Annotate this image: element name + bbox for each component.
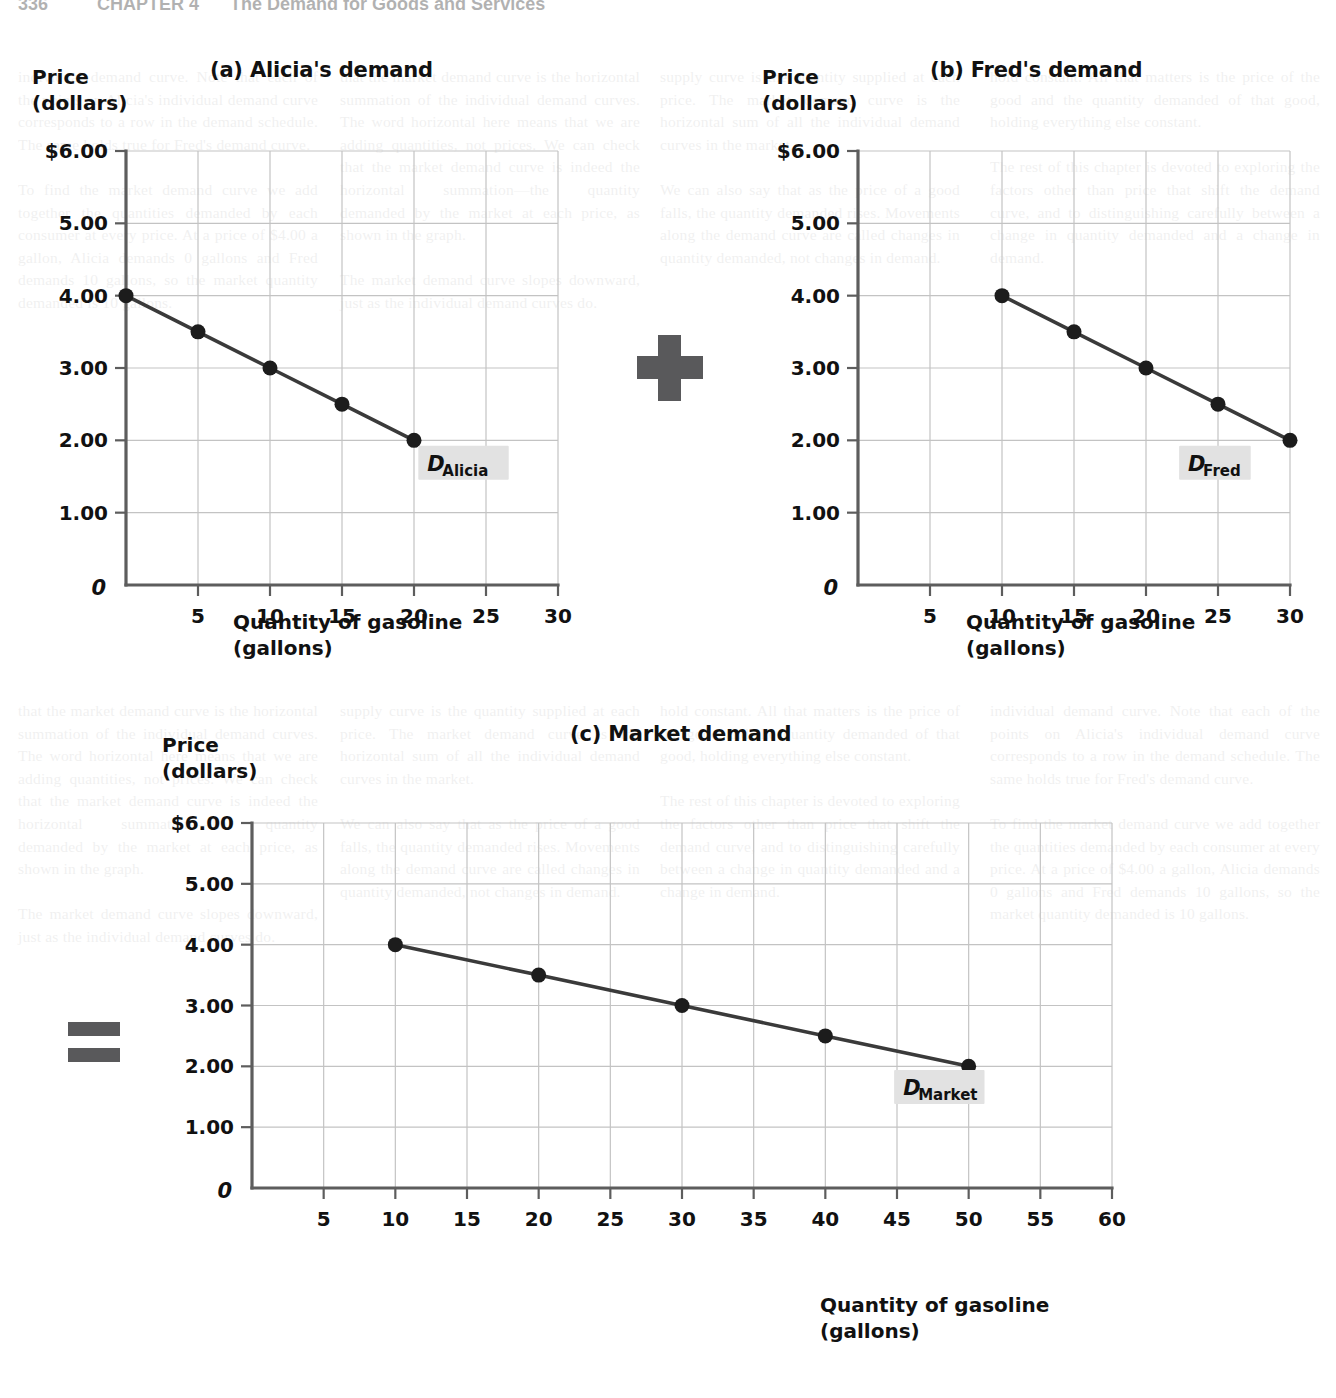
- y-tick-label: 1.00: [791, 501, 840, 525]
- data-point-marker: [263, 361, 278, 376]
- x-tick-label: 5: [923, 604, 937, 628]
- x-tick-label: 20: [525, 1207, 553, 1231]
- x-tick-label: 50: [955, 1207, 983, 1231]
- data-point-marker: [191, 324, 206, 339]
- x-tick-label: 10: [256, 604, 284, 628]
- y-tick-label: 1.00: [185, 1115, 234, 1139]
- x-tick-label: 5: [191, 604, 205, 628]
- x-tick-label: 55: [1026, 1207, 1054, 1231]
- y-tick-label: 2.00: [185, 1054, 234, 1078]
- demand-curve-label-subscript: Market: [918, 1086, 977, 1104]
- x-tick-label: 35: [740, 1207, 768, 1231]
- chart-svg-market: 1.002.003.004.005.00$6.00510152025303540…: [130, 672, 1190, 1292]
- x-axis-caption-line1: Quantity of gasoline: [820, 1292, 1049, 1318]
- plus-operator-icon: [637, 335, 703, 401]
- data-point-marker: [531, 968, 546, 983]
- y-tick-label: 1.00: [59, 501, 108, 525]
- x-axis-caption-market: Quantity of gasoline (gallons): [820, 1292, 1049, 1344]
- x-tick-label: 25: [472, 604, 500, 628]
- demand-curve-label: DAlicia: [418, 446, 508, 480]
- y-tick-label: 4.00: [185, 933, 234, 957]
- x-tick-label: 45: [883, 1207, 911, 1231]
- demand-curve-label: DMarket: [894, 1070, 984, 1104]
- demand-curve-label: DFred: [1179, 446, 1251, 480]
- origin-label: 0: [217, 1179, 232, 1203]
- x-tick-label: 30: [668, 1207, 696, 1231]
- x-tick-label: 30: [1276, 604, 1304, 628]
- y-tick-label: 3.00: [185, 994, 234, 1018]
- origin-label: 0: [91, 576, 106, 600]
- y-tick-label: 4.00: [59, 284, 108, 308]
- x-tick-label: 15: [328, 604, 356, 628]
- data-point-marker: [407, 433, 422, 448]
- y-tick-label: $6.00: [777, 139, 840, 163]
- x-tick-label: 30: [544, 604, 572, 628]
- chart-svg-fred: 1.002.003.004.005.00$6.00510152025300DFr…: [730, 0, 1336, 620]
- data-point-marker: [1211, 397, 1226, 412]
- x-tick-label: 15: [1060, 604, 1088, 628]
- y-tick-label: 5.00: [791, 211, 840, 235]
- y-tick-label: 5.00: [185, 872, 234, 896]
- data-point-marker: [818, 1028, 833, 1043]
- data-point-marker: [119, 288, 134, 303]
- data-point-marker: [388, 937, 403, 952]
- equals-operator-icon: [68, 1022, 120, 1062]
- y-tick-label: 5.00: [59, 211, 108, 235]
- y-tick-label: $6.00: [171, 811, 234, 835]
- y-tick-label: $6.00: [45, 139, 108, 163]
- x-tick-label: 60: [1098, 1207, 1126, 1231]
- origin-label: 0: [823, 576, 838, 600]
- demand-curve-label-subscript: Fred: [1203, 462, 1241, 480]
- x-tick-label: 10: [381, 1207, 409, 1231]
- data-point-marker: [1139, 361, 1154, 376]
- x-tick-label: 25: [1204, 604, 1232, 628]
- x-tick-label: 5: [317, 1207, 331, 1231]
- x-tick-label: 20: [1132, 604, 1160, 628]
- x-tick-label: 25: [596, 1207, 624, 1231]
- x-tick-label: 40: [811, 1207, 839, 1231]
- x-tick-label: 10: [988, 604, 1016, 628]
- x-axis-caption-line2: (gallons): [233, 635, 462, 661]
- x-axis-caption-line2: (gallons): [966, 635, 1195, 661]
- data-point-marker: [1067, 324, 1082, 339]
- chart-svg-alicia: 1.002.003.004.005.00$6.00510152025300DAl…: [0, 0, 640, 620]
- data-point-marker: [1283, 433, 1298, 448]
- x-tick-label: 15: [453, 1207, 481, 1231]
- data-point-marker: [995, 288, 1010, 303]
- x-tick-label: 20: [400, 604, 428, 628]
- demand-curve-label-subscript: Alicia: [442, 462, 488, 480]
- y-tick-label: 4.00: [791, 284, 840, 308]
- y-tick-label: 3.00: [791, 356, 840, 380]
- y-tick-label: 2.00: [791, 428, 840, 452]
- y-tick-label: 2.00: [59, 428, 108, 452]
- y-tick-label: 3.00: [59, 356, 108, 380]
- data-point-marker: [335, 397, 350, 412]
- data-point-marker: [675, 998, 690, 1013]
- x-axis-caption-line2: (gallons): [820, 1318, 1049, 1344]
